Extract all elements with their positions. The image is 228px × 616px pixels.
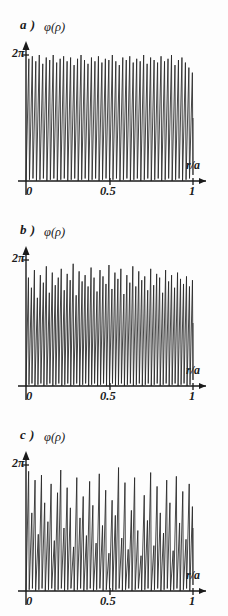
panel-a-plot (0, 0, 228, 205)
panel-b: b ) φ(ρ) 2π r/a 0 0.5 1 (0, 205, 228, 410)
panel-a: a ) φ(ρ) 2π r/a 0 0.5 1 (0, 0, 228, 205)
figure-container: a ) φ(ρ) 2π r/a 0 0.5 1 b ) φ(ρ) 2π r/a … (0, 0, 228, 616)
panel-b-plot (0, 205, 228, 410)
panel-c-trace (26, 468, 193, 591)
panel-c: c ) φ(ρ) 2π r/a 0 0.5 1 (0, 410, 228, 615)
panel-a-trace (26, 55, 193, 181)
panel-c-plot (0, 410, 228, 615)
panel-b-trace (26, 264, 193, 386)
